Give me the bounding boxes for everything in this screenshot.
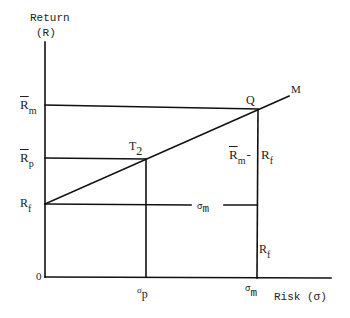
excess-rm-main: R — [229, 147, 238, 162]
rf-vertical-sub: f — [267, 249, 270, 260]
y-tick-rm: Rm — [20, 98, 36, 111]
rf-horizontal-line-left — [45, 204, 191, 205]
x-tick-sigma-p-sub: p — [142, 287, 148, 301]
diagram-lines — [0, 0, 350, 318]
y-axis-label-line1: Return — [30, 12, 70, 24]
point-m-label: M — [291, 84, 301, 95]
excess-rm-sub: m — [238, 155, 246, 166]
x-axis — [45, 277, 331, 278]
sigma-m-span-label: σm — [197, 201, 209, 212]
point-t2-sub: 2 — [136, 144, 142, 158]
x-axis-label: Risk (σ) — [274, 292, 327, 303]
capital-market-line — [45, 96, 289, 204]
x-tick-sigma-m: σm — [245, 283, 257, 294]
rf-vertical-label: Rf — [259, 243, 270, 255]
y-tick-rp-sub: p — [29, 158, 34, 169]
x-tick-sigma-m-sub: m — [250, 287, 257, 299]
rp-horizontal-line — [45, 158, 146, 159]
y-tick-rf: Rf — [20, 197, 31, 209]
origin-label: 0 — [36, 271, 42, 282]
y-tick-rf-main: R — [20, 196, 28, 210]
y-tick-rm-sub: m — [29, 105, 37, 116]
y-axis-label-line2: (R) — [36, 27, 56, 39]
y-tick-rm-main: R — [20, 97, 29, 112]
y-axis-label: Return — [30, 13, 70, 24]
rm-horizontal-line — [45, 105, 258, 109]
excess-rf-sub: f — [270, 155, 273, 166]
sigma-m-vertical-line — [257, 110, 258, 278]
y-axis-label-symbol: (R) — [36, 28, 56, 39]
cml-diagram: Return (R) Rm Rp Rf 0 σp σm Risk (σ) Q M… — [0, 0, 350, 318]
y-tick-rp-main: R — [20, 150, 29, 165]
point-t2-label: T2 — [129, 140, 142, 152]
excess-rf-main: R — [261, 147, 270, 162]
excess-rf-label: Rf — [261, 148, 273, 161]
y-tick-rp: Rp — [20, 151, 34, 164]
sigma-m-span-sub: m — [202, 203, 209, 215]
x-tick-sigma-p: σp — [137, 283, 148, 295]
rf-vertical-main: R — [259, 242, 267, 256]
excess-dash: - — [246, 147, 250, 162]
excess-return-label: Rm- — [229, 148, 251, 161]
y-tick-rf-sub: f — [28, 203, 31, 214]
point-q-label: Q — [246, 94, 255, 106]
